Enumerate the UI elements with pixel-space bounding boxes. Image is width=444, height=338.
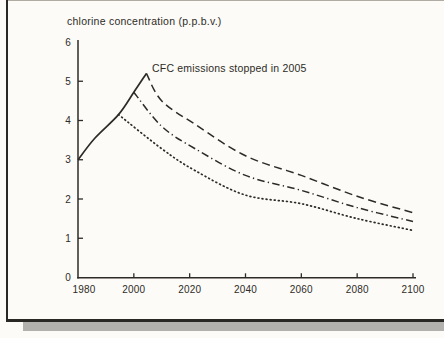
y-tick-label: 2 (65, 194, 71, 205)
figure-drop-shadow (23, 322, 444, 331)
y-tick-label: 6 (65, 37, 71, 48)
curve-annotation-stopped-2005: CFC emissions stopped in 2005 (152, 62, 307, 74)
chart-canvas: 01234561980200020202040206020802100 (0, 0, 444, 338)
y-tick-label: 1 (65, 233, 71, 244)
y-tick-label: 0 (65, 272, 71, 283)
figure-frame-left-border (6, 0, 8, 321)
series-dashed-curve (146, 73, 413, 212)
x-tick-label: 2100 (401, 284, 424, 295)
scanned-figure: 01234561980200020202040206020802100 chlo… (0, 0, 444, 338)
figure-frame-top-border (7, 0, 444, 1)
x-tick-label: 2060 (290, 284, 313, 295)
y-tick-label: 5 (65, 76, 71, 87)
series-dash-dot-curve (134, 92, 413, 221)
y-tick-label: 3 (65, 154, 71, 165)
x-tick-label: 2040 (234, 284, 257, 295)
series-dotted-curve (119, 115, 414, 231)
chart-title: chlorine concentration (p.p.b.v.) (67, 15, 222, 27)
x-tick-label: 2080 (346, 284, 369, 295)
x-tick-label: 1980 (72, 284, 95, 295)
x-tick-label: 2000 (122, 284, 145, 295)
y-tick-label: 4 (65, 115, 71, 126)
series-solid-curve (78, 73, 146, 159)
x-tick-label: 2020 (178, 284, 201, 295)
